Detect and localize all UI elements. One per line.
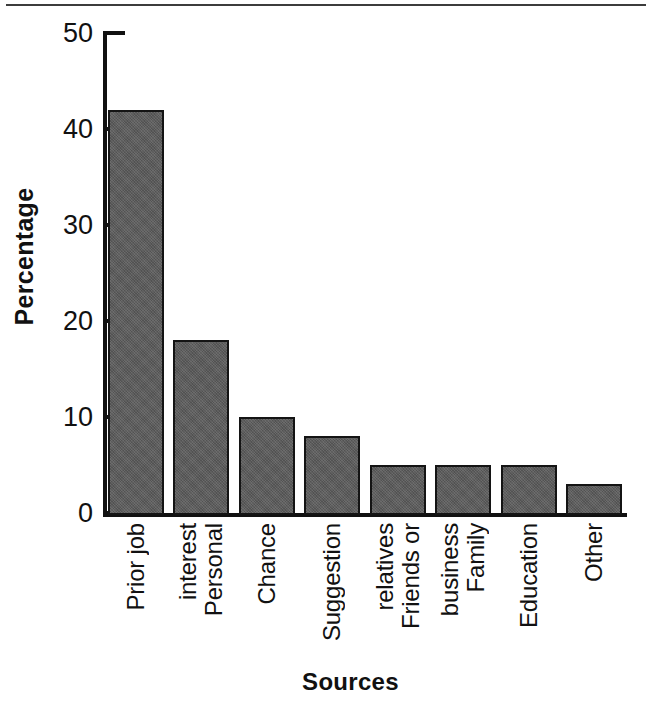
x-axis-tick-label-line: relatives: [373, 523, 397, 611]
x-axis-tick-label-line: Family: [464, 523, 488, 592]
y-axis-tick-label: 40: [3, 114, 93, 145]
x-axis-tick-label: Friends orrelatives: [370, 523, 426, 673]
x-axis-tick-label-line: business: [438, 523, 462, 616]
x-axis-tick-label-line: Friends or: [399, 523, 423, 629]
y-axis-line: [103, 33, 107, 516]
x-axis-title-text: Sources: [302, 668, 399, 696]
plot-area: [103, 33, 627, 513]
x-axis-tick-label-line: Chance: [255, 523, 279, 605]
y-axis-tick-label: 0: [3, 498, 93, 529]
x-axis-tick-label-line: Suggestion: [320, 523, 344, 641]
y-axis-tick: [103, 31, 125, 35]
y-axis-tick-label: 30: [3, 210, 93, 241]
x-axis-tick-label-line: Other: [582, 523, 606, 582]
y-axis-tick-label: 10: [3, 402, 93, 433]
bar: [566, 484, 622, 515]
x-axis-tick-label: Personalinterest: [173, 523, 229, 673]
x-axis-tick-label: Education: [501, 523, 557, 673]
bar: [435, 465, 491, 515]
bar: [239, 417, 295, 515]
bar-chart-figure: Percentage 01020304050 Prior jobPersonal…: [0, 0, 651, 713]
x-axis-tick-label-line: Education: [517, 523, 541, 628]
y-axis-tick-label: 50: [3, 18, 93, 49]
bar: [370, 465, 426, 515]
x-axis-tick-label-line: interest: [176, 523, 200, 600]
y-axis-tick-label: 20: [3, 306, 93, 337]
bar: [501, 465, 557, 515]
y-axis-title: Percentage: [8, 0, 42, 513]
x-axis-title: Sources: [0, 668, 651, 696]
x-axis-tick-label: Other: [566, 523, 622, 673]
x-axis-tick-label-line: Personal: [202, 523, 226, 616]
x-axis-tick-label: Suggestion: [304, 523, 360, 673]
x-axis-tick-label: Familybusiness: [435, 523, 491, 673]
bar: [304, 436, 360, 515]
bar: [173, 340, 229, 515]
bar: [108, 110, 164, 515]
top-divider-rule: [6, 4, 646, 6]
x-axis-tick-label: Prior job: [108, 523, 164, 673]
x-axis-tick-label: Chance: [239, 523, 295, 673]
x-axis-tick-label-line: Prior job: [124, 523, 148, 611]
